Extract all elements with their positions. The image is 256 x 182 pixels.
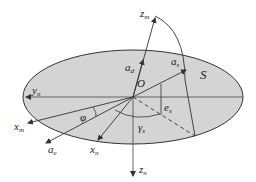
diagram-canvas: zm ad O as S yn es φ xm γs ae xn zn [0,0,256,182]
label-zm: zm [139,7,149,21]
label-plane-s: S [200,67,207,82]
label-origin: O [137,77,145,89]
label-xm: xm [13,120,24,134]
label-ae: ae [48,143,57,157]
label-zn: zn [138,163,147,177]
label-phi: φ [80,111,86,123]
label-xn: xn [89,143,99,157]
